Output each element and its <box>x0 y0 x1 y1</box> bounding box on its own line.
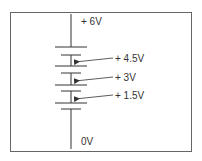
battery-cell-2 <box>55 85 87 91</box>
arrow-3v-icon <box>75 77 113 81</box>
label-top-voltage: + 6V <box>81 16 102 27</box>
diagram-frame <box>11 13 192 152</box>
label-1-5v: + 1.5V <box>115 90 145 101</box>
battery-cell-1 <box>55 103 87 109</box>
label-4-5v: + 4.5V <box>115 53 145 64</box>
battery-cell-3 <box>55 66 87 73</box>
label-ground: 0V <box>81 136 94 147</box>
label-3v: + 3V <box>115 72 136 83</box>
battery-cell-4 <box>55 47 87 55</box>
arrow-1-5v-icon <box>75 95 113 99</box>
arrow-4-5v-icon <box>75 58 113 62</box>
battery-diagram: + 6V + 4.5V + 3V + 1.5V 0V <box>0 0 202 161</box>
